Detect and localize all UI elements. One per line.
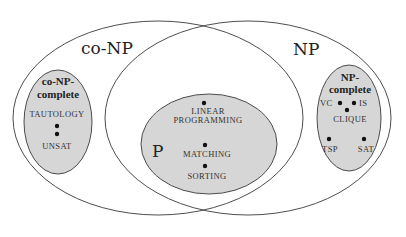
conp-complete-label-line2: complete bbox=[37, 88, 79, 100]
dot-unsat bbox=[55, 132, 59, 136]
conp-label: co-NP bbox=[81, 38, 133, 58]
problem-programming: PROGRAMMING bbox=[173, 115, 242, 125]
dot-linear-programming bbox=[202, 101, 206, 105]
problem-clique: CLIQUE bbox=[333, 114, 367, 124]
dot-is bbox=[352, 101, 356, 105]
complexity-venn-diagram: co-NP NP co-NP- complete TAUTOLOGY UNSAT… bbox=[0, 0, 406, 237]
dot-clique bbox=[345, 108, 349, 112]
dot-tautology bbox=[55, 124, 59, 128]
dot-matching bbox=[203, 143, 207, 147]
problem-tautology: TAUTOLOGY bbox=[29, 109, 84, 119]
problem-vc: VC bbox=[320, 98, 333, 108]
problem-sorting: SORTING bbox=[187, 171, 226, 181]
problem-unsat: UNSAT bbox=[42, 141, 72, 151]
np-label: NP bbox=[293, 39, 319, 59]
dot-vc bbox=[338, 101, 342, 105]
np-complete-label-line1: NP- bbox=[341, 71, 360, 83]
dot-tsp bbox=[327, 137, 331, 141]
p-label: P bbox=[152, 141, 163, 161]
problem-is: IS bbox=[359, 98, 367, 108]
problem-matching: MATCHING bbox=[183, 149, 231, 159]
np-complete-label-line2: complete bbox=[329, 83, 371, 95]
problem-sat: SAT bbox=[358, 144, 375, 154]
dot-sat bbox=[362, 137, 366, 141]
problem-tsp: TSP bbox=[322, 144, 338, 154]
conp-complete-label-line1: co-NP- bbox=[42, 75, 75, 87]
dot-sorting bbox=[203, 164, 207, 168]
